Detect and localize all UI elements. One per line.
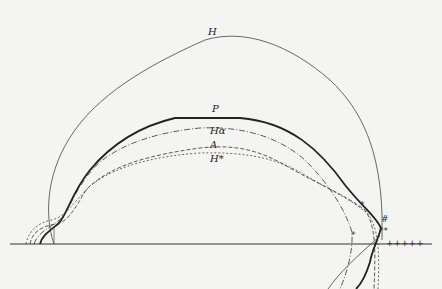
marker-star-1: * bbox=[360, 200, 365, 210]
marker-hash: # bbox=[381, 214, 389, 224]
curve-diagram: H P Hα A H* * * ** # +++++ bbox=[0, 0, 442, 289]
curve-A bbox=[30, 147, 375, 289]
curve-Hstar bbox=[26, 153, 379, 289]
label-P: P bbox=[211, 103, 219, 114]
marker-star-2: * bbox=[351, 230, 356, 240]
label-A: A bbox=[209, 139, 217, 150]
label-H: H bbox=[207, 26, 217, 37]
diagram-canvas: H P Hα A H* * * ** # +++++ bbox=[0, 0, 442, 289]
marker-star-3: ** bbox=[379, 226, 389, 236]
marker-plus-row: +++++ bbox=[386, 238, 424, 248]
label-Ha: Hα bbox=[209, 125, 226, 136]
curve-Ha bbox=[34, 128, 352, 289]
label-Hs: H* bbox=[209, 153, 224, 164]
